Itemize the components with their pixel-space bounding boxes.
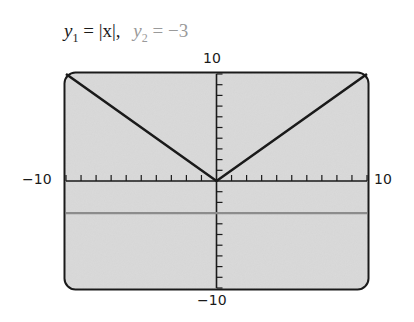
graph-screen — [0, 0, 414, 322]
